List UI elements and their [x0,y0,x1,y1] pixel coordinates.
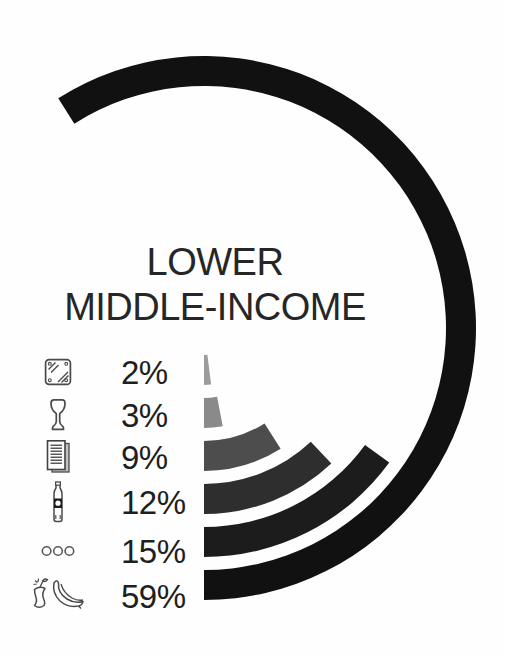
legend-row-plastic: 12% [0,480,230,524]
pct-label-glass: 3% [121,399,168,432]
legend-row-other: 15% [0,529,230,573]
pct-label-plastic: 12% [121,486,186,519]
legend-row-organic: 59% [0,574,230,618]
legend-row-paper: 9% [0,435,230,479]
chart-canvas: LOWER MIDDLE-INCOME 2% 3% [0,0,505,656]
legend-row-glass: 3% [0,393,230,437]
pct-label-paper: 9% [121,441,168,474]
paper-icon [45,439,71,475]
pct-label-metal: 2% [121,356,168,389]
pct-label-other: 15% [121,535,186,568]
legend-row-metal: 2% [0,350,230,394]
metal-icon [44,358,72,386]
pct-label-organic: 59% [121,580,186,613]
other-dots-icon [41,545,75,557]
chart-title: LOWER MIDDLE-INCOME [35,240,395,330]
chart-title-line2: MIDDLE-INCOME [35,285,395,330]
glass-icon [48,398,68,432]
chart-title-line1: LOWER [35,240,395,285]
plastic-bottle-icon [51,481,65,523]
organic-waste-icon [30,576,86,616]
